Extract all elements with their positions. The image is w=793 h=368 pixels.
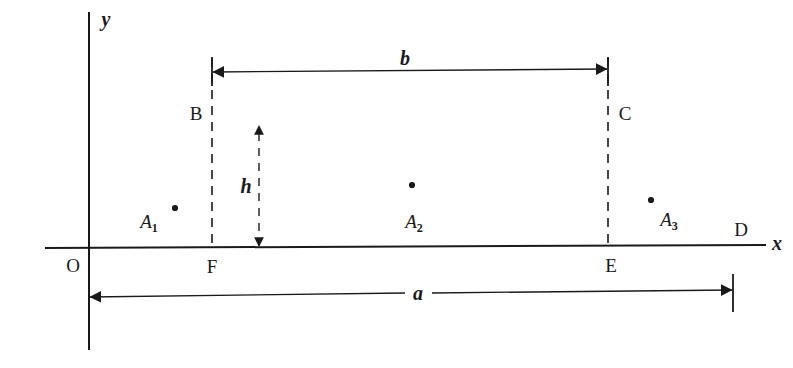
point-label-a1-base: A [140,211,152,232]
vertex-label-c: C [619,104,632,123]
vertex-label-f: F [207,257,218,276]
dimension-label-b: b [400,48,410,68]
a-dimension-arrow-left-half [90,293,405,297]
dimension-label-a: a [413,283,423,303]
diagram-canvas [0,0,793,368]
point-label-a2-base: A [405,211,417,232]
dimension-label-h: h [240,176,251,196]
y-axis-label: y [102,9,111,29]
vertex-label-e: E [605,256,617,275]
point-marker-a3 [648,197,654,203]
point-marker-a1 [172,205,178,211]
point-label-a3: A3 [660,210,678,233]
x-axis-label: x [772,233,782,253]
point-label-a2-sub: 2 [417,221,423,235]
x-axis-point-label-d: D [734,220,748,239]
point-marker-a2 [409,182,415,188]
origin-label: O [66,256,80,275]
b-dimension-arrow [213,69,607,72]
geometry-diagram: y x O B C F E D b a h A1 A2 A3 [0,0,793,368]
point-label-a3-base: A [660,209,672,230]
point-label-a2: A2 [405,212,423,235]
point-label-a1-sub: 1 [152,221,158,235]
a-dimension-arrow-right-half [432,290,732,293]
point-label-a3-sub: 3 [672,219,678,233]
point-label-a1: A1 [140,212,158,235]
vertex-label-b: B [190,104,203,123]
x-axis-line [45,245,766,248]
